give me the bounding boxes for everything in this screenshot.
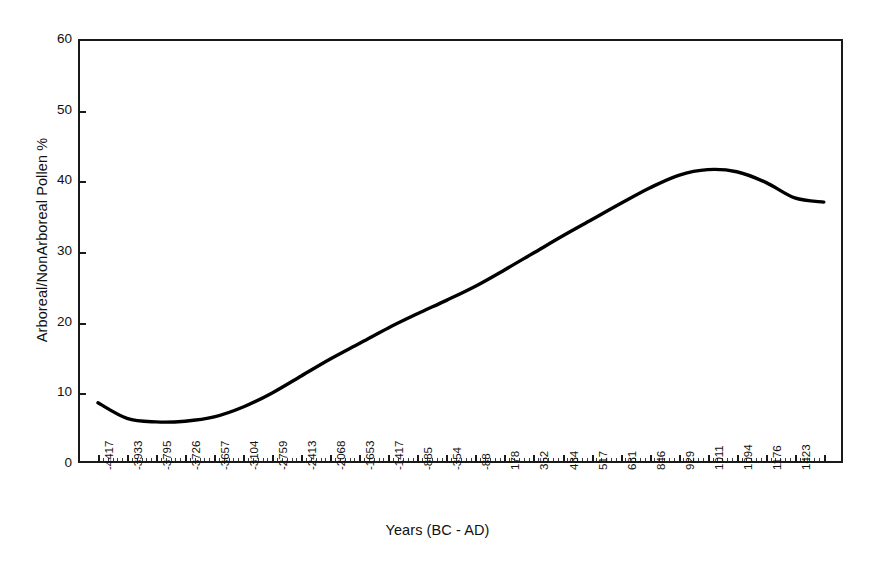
x-axis-minor-tick-mark	[495, 458, 496, 461]
caption-sliver	[60, 556, 850, 568]
x-axis-minor-tick-mark	[500, 458, 501, 461]
x-axis-minor-tick-mark	[413, 458, 414, 461]
x-axis-tick-mark	[272, 455, 274, 461]
x-axis-tick-label: 352	[537, 410, 551, 470]
x-axis-tick-label: -88	[479, 410, 493, 470]
x-axis-minor-tick-mark	[325, 458, 326, 461]
x-axis-minor-tick-mark	[790, 458, 791, 461]
x-axis-tick-label: -1653	[363, 410, 377, 470]
x-axis-tick-mark	[563, 455, 565, 461]
x-axis-tick-mark	[214, 455, 216, 461]
x-axis-tick-mark	[301, 455, 303, 461]
x-axis-tick-mark	[708, 455, 710, 461]
x-axis-minor-tick-mark	[296, 458, 297, 461]
x-axis-tick-label: 178	[508, 410, 522, 470]
x-axis-tick-label: 517	[596, 410, 610, 470]
x-axis-tick-label: 1094	[741, 410, 755, 470]
x-axis-minor-tick-mark	[117, 458, 118, 461]
y-axis-tick-mark	[80, 252, 86, 254]
x-axis-tick-mark	[98, 455, 100, 461]
x-axis-tick-label: -3657	[218, 410, 232, 470]
x-axis-minor-tick-mark	[587, 458, 588, 461]
x-axis-minor-tick-mark	[814, 458, 815, 461]
x-axis-minor-tick-mark	[350, 458, 351, 461]
x-axis-tick-mark	[359, 455, 361, 461]
x-axis-tick-mark	[504, 455, 506, 461]
x-axis-minor-tick-mark	[703, 458, 704, 461]
x-axis-tick-mark	[417, 455, 419, 461]
y-axis-tick-label: 40	[32, 174, 72, 186]
figure-canvas: Arboreal/NonArboreal Pollen % 0102030405…	[0, 0, 875, 568]
x-axis-tick-mark	[243, 455, 245, 461]
x-axis-minor-tick-mark	[146, 458, 147, 461]
x-axis-minor-tick-mark	[263, 458, 264, 461]
x-axis-title: Years (BC - AD)	[0, 522, 875, 538]
x-axis-minor-tick-mark	[233, 458, 234, 461]
x-axis-tick-label: -3104	[247, 410, 261, 470]
x-axis-tick-label: -3933	[131, 410, 145, 470]
x-axis-minor-tick-mark	[785, 458, 786, 461]
x-axis-minor-tick-mark	[553, 458, 554, 461]
x-axis-minor-tick-mark	[437, 458, 438, 461]
x-axis-minor-tick-mark	[732, 458, 733, 461]
x-axis-minor-tick-mark	[442, 458, 443, 461]
x-axis-minor-tick-mark	[471, 458, 472, 461]
x-axis-minor-tick-mark	[379, 458, 380, 461]
x-axis-minor-tick-mark	[292, 458, 293, 461]
x-axis-tick-mark	[330, 455, 332, 461]
y-axis-tick-label: 10	[32, 386, 72, 398]
x-axis-tick-label: -3795	[160, 410, 174, 470]
x-axis-tick-label: -4417	[102, 410, 116, 470]
x-axis-minor-tick-mark	[582, 458, 583, 461]
x-axis-tick-label: -1417	[392, 410, 406, 470]
x-axis-minor-tick-mark	[466, 458, 467, 461]
y-axis-tick-label: 60	[32, 33, 72, 45]
x-axis-tick-label: 929	[683, 410, 697, 470]
x-axis-minor-tick-mark	[669, 458, 670, 461]
x-axis-minor-tick-mark	[524, 458, 525, 461]
x-axis-tick-label: 1176	[770, 410, 784, 470]
y-axis-tick-mark	[80, 181, 86, 183]
y-axis-tick-mark	[80, 393, 86, 395]
x-axis-minor-tick-mark	[616, 458, 617, 461]
x-axis-minor-tick-mark	[529, 458, 530, 461]
x-axis-tick-label: 846	[654, 410, 668, 470]
x-axis-minor-tick-mark	[819, 458, 820, 461]
x-axis-tick-label: 681	[625, 410, 639, 470]
x-axis-tick-mark	[592, 455, 594, 461]
x-axis-tick-mark	[621, 455, 623, 461]
data-series-line	[80, 41, 845, 465]
x-axis-tick-mark	[446, 455, 448, 461]
x-axis-minor-tick-mark	[383, 458, 384, 461]
x-axis-minor-tick-mark	[209, 458, 210, 461]
x-axis-minor-tick-mark	[122, 458, 123, 461]
x-axis-tick-mark	[127, 455, 129, 461]
x-axis-tick-label: 1011	[712, 410, 726, 470]
y-axis-tick-label: 0	[32, 457, 72, 469]
x-axis-tick-label: -885	[421, 410, 435, 470]
x-axis-minor-tick-mark	[151, 458, 152, 461]
plot-area	[78, 39, 843, 463]
y-axis-tick-mark	[80, 323, 86, 325]
y-axis-tick-label: 20	[32, 316, 72, 328]
x-axis-minor-tick-mark	[354, 458, 355, 461]
x-axis-tick-mark	[185, 455, 187, 461]
x-axis-minor-tick-mark	[674, 458, 675, 461]
x-axis-tick-mark	[795, 455, 797, 461]
y-axis-tick-label: 30	[32, 245, 72, 257]
x-axis-minor-tick-mark	[238, 458, 239, 461]
y-axis-tick-label: 50	[32, 104, 72, 116]
x-axis-minor-tick-mark	[267, 458, 268, 461]
x-axis-minor-tick-mark	[645, 458, 646, 461]
x-axis-tick-mark	[824, 455, 826, 461]
x-axis-minor-tick-mark	[640, 458, 641, 461]
x-axis-tick-label: 434	[567, 410, 581, 470]
x-axis-minor-tick-mark	[761, 458, 762, 461]
x-axis-tick-mark	[650, 455, 652, 461]
x-axis-minor-tick-mark	[175, 458, 176, 461]
x-axis-tick-mark	[475, 455, 477, 461]
x-axis-minor-tick-mark	[698, 458, 699, 461]
x-axis-minor-tick-mark	[756, 458, 757, 461]
x-axis-minor-tick-mark	[408, 458, 409, 461]
x-axis-tick-label: -3726	[189, 410, 203, 470]
